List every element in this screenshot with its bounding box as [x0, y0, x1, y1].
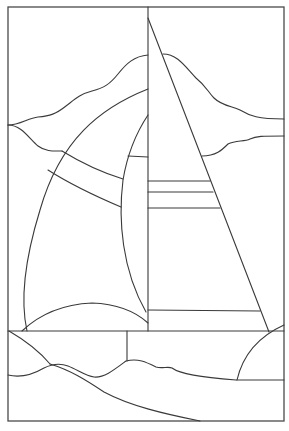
spinnaker-outer-edge	[24, 89, 148, 331]
spinnaker-inner-edge	[121, 115, 148, 312]
hull-arc	[22, 303, 148, 331]
sun-arc	[237, 325, 284, 380]
cloud-right-bottom	[202, 136, 284, 156]
jib-leech	[148, 18, 269, 332]
cloud-left-bottom	[8, 125, 62, 151]
water-left-curve	[9, 331, 50, 364]
spinnaker-stripe-1	[62, 151, 123, 179]
wave-lower-curve	[50, 364, 200, 421]
cloud-left-top	[8, 55, 148, 125]
cloud-right-top	[163, 54, 284, 119]
sailboat-line-drawing	[0, 0, 289, 431]
spinnaker-stripe-small	[128, 156, 148, 157]
pattern-svg	[0, 0, 289, 431]
outer-frame	[8, 7, 284, 421]
jib-foot	[148, 310, 260, 311]
spinnaker-stripe-2	[48, 170, 121, 207]
